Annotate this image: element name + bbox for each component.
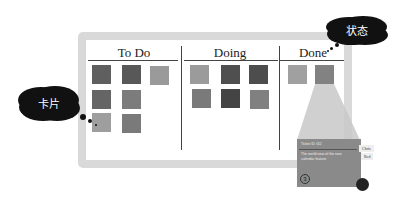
callout-dot [335, 43, 339, 47]
ticket-id: Ticket ID #42 [301, 142, 322, 146]
callout-dot [95, 124, 97, 126]
status-tag: Red [361, 153, 373, 160]
divider [299, 149, 357, 150]
callout-dot [80, 114, 86, 120]
owner-tag: Chris [359, 145, 374, 152]
card-detail[interactable]: Ticket ID #42 The world view of the new … [297, 139, 361, 187]
callout-dot [327, 50, 329, 52]
card-number: 3 [300, 174, 310, 184]
ticket-description: The world view of the new calendar featu… [301, 152, 349, 161]
status-callout: 状态 [332, 18, 382, 42]
connector-dot [356, 178, 369, 191]
callout-dot [330, 47, 333, 50]
callout-label: 卡片 [38, 95, 60, 111]
card-callout: 卡片 [24, 88, 74, 118]
callout-label: 状态 [346, 22, 368, 38]
callout-dot [88, 119, 92, 123]
